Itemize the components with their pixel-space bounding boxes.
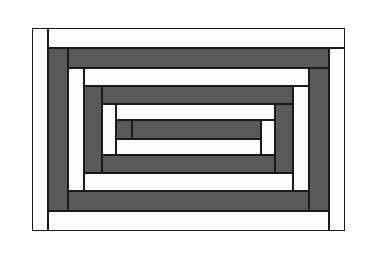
log-16-bottom-dark <box>102 155 275 173</box>
log-05-left-dark <box>48 48 68 211</box>
log-21-left-dark <box>116 120 132 139</box>
log-11-right-light <box>293 86 309 191</box>
log-06-top-dark <box>68 48 329 68</box>
log-01-left-light <box>32 28 48 231</box>
log-14-top-dark <box>102 86 293 104</box>
log-22-center-dark <box>132 120 261 139</box>
quilt-block-figure <box>0 0 365 254</box>
log-02-top-light <box>48 28 345 48</box>
log-19-right-light <box>261 120 275 155</box>
log-17-left-light <box>102 104 116 155</box>
log-12-bottom-light <box>84 173 293 191</box>
log-04-bottom-light <box>48 211 329 231</box>
log-09-left-light <box>68 68 84 191</box>
log-15-right-dark <box>275 104 293 173</box>
log-07-right-dark <box>309 68 329 211</box>
log-08-bottom-dark <box>68 191 309 211</box>
log-03-right-light <box>329 48 345 231</box>
log-13-left-dark <box>84 86 102 173</box>
log-18-top-light <box>116 104 275 120</box>
log-20-bottom-light <box>116 139 261 155</box>
log-10-top-light <box>84 68 309 86</box>
